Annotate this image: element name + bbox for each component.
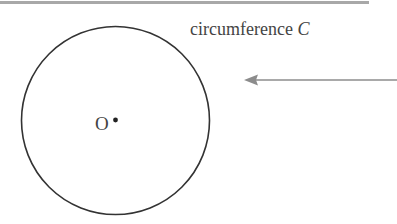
circumference-text: circumference [190,19,293,39]
circumference-variable: C [297,19,309,39]
center-point [113,118,118,123]
arrow-left-icon [244,75,397,86]
circumference-label: circumference C [190,19,309,40]
center-label: O [95,113,109,135]
